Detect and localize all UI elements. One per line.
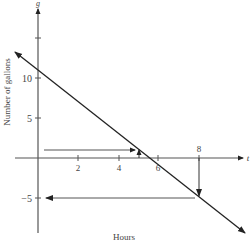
x-tick-2: 2 (76, 163, 81, 173)
data-line (38, 70, 245, 233)
y-axis-var: g (36, 0, 40, 8)
x-axis-var: t (247, 153, 250, 163)
y-tick-minus5: −5 (21, 193, 32, 204)
x-tick-8: 8 (197, 144, 202, 154)
x-tick-4: 4 (117, 163, 122, 173)
x-axis-title: Hours (113, 232, 135, 242)
chart: 10 5 −5 2 4 6 8 g t Number of gallons Ho… (0, 0, 252, 251)
y-axis-title: Number of gallons (2, 58, 12, 126)
y-tick-10: 10 (22, 73, 32, 84)
y-tick-5: 5 (27, 113, 32, 124)
data-line (15, 52, 38, 70)
